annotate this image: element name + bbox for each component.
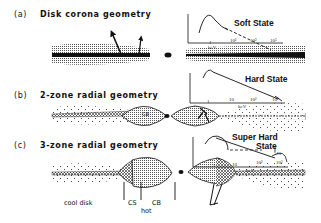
panel-a-state: Soft State <box>234 18 274 28</box>
panel-b-tick-2: 10 <box>229 97 234 102</box>
panel-b-cb-label: CB <box>142 111 149 117</box>
panel-c-axis-unit: keV <box>246 168 254 173</box>
panel-c-line-label: 511 <box>274 151 281 156</box>
panel-c-tick-4: 10³ <box>276 160 283 165</box>
panel-c-tick-1: 1 <box>213 163 216 168</box>
panel-c-state-line2: State <box>256 141 277 151</box>
panel-b-title: 2-zone radial geometry <box>40 91 158 100</box>
panel-a-axis-unit: keV <box>208 45 216 50</box>
panel-b-state: Hard State <box>245 74 288 84</box>
figure-canvas <box>0 0 321 223</box>
zone-label-cool-disk: cool disk <box>64 199 92 207</box>
panel-a-label: (a) <box>14 10 27 19</box>
panel-b-tick-4: 10³ <box>272 97 279 102</box>
panel-a-tick-4: 10³ <box>270 38 277 43</box>
zone-label-hot: hot <box>141 207 152 215</box>
panel-a-title: Disk corona geometry <box>40 10 151 19</box>
zone-label-cb: CB <box>152 199 161 207</box>
panel-a-tick-3: 10² <box>250 38 257 43</box>
panel-c-tick-3: 10² <box>256 160 263 165</box>
panel-a-tick-2: 10¹ <box>230 38 237 43</box>
panel-c-tick-2: 10 <box>232 162 237 167</box>
panel-c-label: (c) <box>14 141 26 150</box>
panel-b-tick-1: 1 <box>207 99 210 104</box>
panel-b-tick-3: 10² <box>250 97 257 102</box>
panel-b-axis-unit: keV <box>238 104 246 109</box>
zone-label-cs: CS <box>128 199 137 207</box>
panel-b-label: (b) <box>14 91 27 100</box>
panel-c-title: 3-zone radial geometry <box>40 141 158 150</box>
